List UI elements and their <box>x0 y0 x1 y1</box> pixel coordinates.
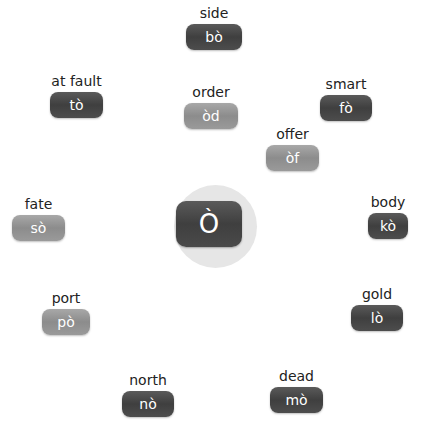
node-label: side <box>200 5 229 21</box>
node-value: tò <box>50 92 103 118</box>
node-gold: gold lò <box>351 286 403 331</box>
node-label: north <box>129 372 167 388</box>
node-smart: smart fò <box>320 76 372 121</box>
node-label: port <box>52 290 81 306</box>
node-label: body <box>371 194 406 210</box>
node-value: bò <box>186 24 242 50</box>
node-value: òd <box>184 103 238 129</box>
node-value: lò <box>351 305 403 331</box>
node-at-fault: at fault tò <box>50 73 103 118</box>
node-label: order <box>192 84 229 100</box>
node-dead: dead mò <box>270 368 323 413</box>
node-label: fate <box>25 196 53 212</box>
node-value: mò <box>270 387 323 413</box>
node-north: north nò <box>122 372 174 417</box>
node-label: dead <box>279 368 314 384</box>
node-side: side bò <box>186 5 242 50</box>
node-value: pò <box>42 309 90 335</box>
node-fate: fate sò <box>12 196 65 241</box>
center-node: Ò <box>176 201 242 247</box>
node-label: smart <box>326 76 367 92</box>
node-value: nò <box>122 391 174 417</box>
node-offer: offer òf <box>266 126 319 171</box>
node-port: port pò <box>42 290 90 335</box>
node-order: order òd <box>184 84 238 129</box>
node-body: body kò <box>368 194 408 239</box>
node-label: gold <box>362 286 392 302</box>
node-label: offer <box>276 126 309 142</box>
node-label: at fault <box>51 73 101 89</box>
node-value: òf <box>266 145 319 171</box>
node-value: kò <box>368 213 408 239</box>
node-value: sò <box>12 215 65 241</box>
node-value: fò <box>320 95 372 121</box>
